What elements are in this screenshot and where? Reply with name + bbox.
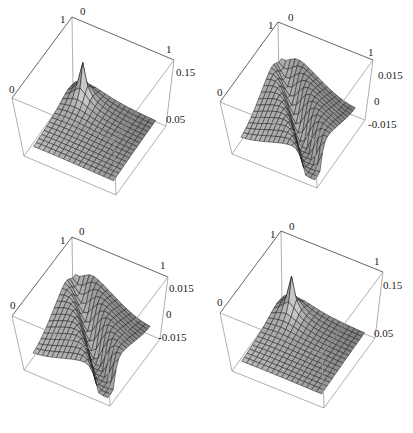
z-tick-1: 0 [166, 309, 172, 320]
corner-label-back-x: 0 [289, 221, 295, 232]
corner-label-back-y: 1 [268, 20, 274, 31]
corner-label-right: 1 [160, 260, 166, 271]
z-tick-0: 0.15 [176, 67, 195, 78]
corner-label-right: 1 [368, 47, 374, 58]
z-tick-1: 0.05 [166, 114, 185, 125]
plot-box [0, 216, 206, 433]
corner-label-left: 0 [217, 297, 223, 308]
surface-plot-top-left: 0 1 1 0 0.15 0.05 [0, 0, 206, 216]
corner-label-right: 1 [374, 256, 380, 267]
surface-plot-bottom-left: 0 1 1 0 0.015 0 -0.015 [0, 216, 206, 433]
corner-label-left: 0 [217, 87, 223, 98]
corner-label-back-y: 1 [60, 235, 66, 246]
z-tick-2: -0.015 [368, 119, 396, 130]
z-tick-1: 0 [374, 96, 380, 107]
surface-plot-bottom-right: 0 1 1 0 0.15 0.05 [206, 216, 413, 433]
corner-label-left: 0 [9, 84, 15, 95]
z-tick-0: 0.015 [378, 70, 403, 81]
plot-box [206, 216, 413, 433]
corner-label-back-x: 0 [80, 6, 86, 17]
surface-plot-top-right: 0 1 1 0 0.015 0 -0.015 [206, 0, 413, 216]
z-tick-0: 0.015 [169, 283, 194, 294]
corner-label-back-x: 0 [79, 226, 85, 237]
corner-label-right: 1 [166, 44, 172, 55]
corner-label-back-x: 0 [288, 12, 294, 23]
z-tick-1: 0.05 [374, 328, 393, 339]
corner-label-back-y: 1 [60, 14, 66, 25]
corner-label-left: 0 [10, 300, 16, 311]
plot-box [0, 0, 206, 216]
z-tick-0: 0.15 [383, 280, 402, 291]
corner-label-back-y: 1 [270, 229, 276, 240]
plot-box [206, 0, 413, 216]
z-tick-2: -0.015 [158, 332, 186, 343]
